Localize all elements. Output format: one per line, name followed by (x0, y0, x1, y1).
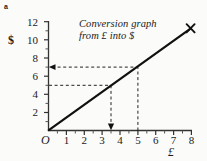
y-tick-label-12: 12 (22, 17, 38, 28)
x-tick-label-2: 2 (77, 135, 91, 146)
chart-title-line-2: from £ into $ (79, 30, 134, 42)
y-tick-label-2: 2 (22, 107, 38, 118)
arrowhead-left-at-7 (49, 64, 56, 70)
y-tick-label-10: 10 (22, 35, 38, 46)
x-axis-label: £ (168, 146, 174, 158)
x-tick-label-8: 8 (184, 135, 198, 146)
y-axis-label: $ (8, 34, 14, 46)
x-tick-label-6: 6 (149, 135, 163, 146)
arrowhead-down-at-3point5 (108, 124, 114, 131)
chart-title-line-1: Conversion graph (79, 18, 157, 30)
endpoint-cross-icon (187, 24, 195, 32)
conversion-graph-figure: a (0, 0, 207, 161)
x-tick-label-1: 1 (59, 135, 73, 146)
x-tick-label-4: 4 (113, 135, 127, 146)
y-tick-label-8: 8 (22, 53, 38, 64)
x-tick-label-5: 5 (131, 135, 145, 146)
conversion-line (49, 29, 191, 131)
y-tick-label-4: 4 (22, 89, 38, 100)
x-tick-label-3: 3 (95, 135, 109, 146)
origin-label: O (41, 134, 50, 146)
y-tick-label-6: 6 (22, 71, 38, 82)
